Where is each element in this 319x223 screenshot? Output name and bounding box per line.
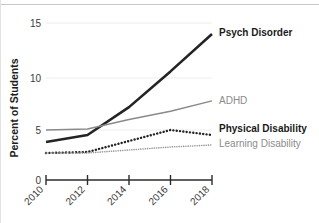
series-label-physical-disability: Physical Disability bbox=[219, 123, 307, 134]
series-line-psych-disorder bbox=[46, 34, 212, 142]
series-group bbox=[46, 34, 212, 153]
x-axis bbox=[46, 175, 212, 185]
y-tick-label-15: 15 bbox=[30, 18, 42, 29]
x-tick-label-2010: 2010 bbox=[22, 183, 46, 207]
x-tick-label-2012: 2012 bbox=[63, 183, 87, 207]
x-tick-label-2014: 2014 bbox=[105, 183, 129, 207]
y-axis-title: Percent of Students bbox=[8, 58, 20, 157]
chart-container: 15 10 5 0 Percent of Students 2010 2012 … bbox=[0, 0, 319, 223]
line-chart: 15 10 5 0 Percent of Students 2010 2012 … bbox=[0, 0, 319, 223]
x-axis-tick-labels: 2010 2012 2014 2016 2018 bbox=[22, 183, 212, 207]
x-tick-label-2018: 2018 bbox=[188, 183, 212, 207]
y-tick-label-10: 10 bbox=[30, 73, 42, 84]
x-tick-label-2016: 2016 bbox=[146, 183, 170, 207]
series-line-learning-disability bbox=[46, 145, 212, 153]
series-labels: Psych Disorder ADHD Physical Disability … bbox=[219, 27, 307, 149]
series-label-learning-disability: Learning Disability bbox=[219, 138, 301, 149]
series-label-adhd: ADHD bbox=[219, 95, 247, 106]
series-label-psych-disorder: Psych Disorder bbox=[219, 27, 292, 38]
series-line-adhd bbox=[46, 101, 212, 130]
y-tick-label-5: 5 bbox=[35, 125, 41, 136]
gridlines bbox=[46, 23, 212, 130]
y-axis-ticks: 15 10 5 0 bbox=[30, 18, 42, 186]
